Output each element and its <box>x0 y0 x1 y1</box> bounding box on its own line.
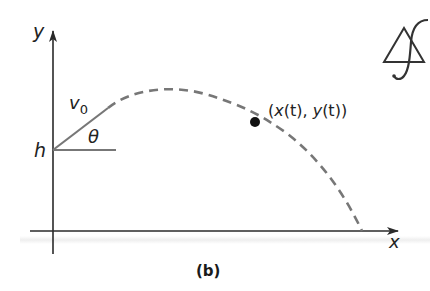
trajectory-point <box>250 117 260 127</box>
x-axis-label: x <box>389 233 400 251</box>
velocity-subscript: 0 <box>80 102 88 117</box>
y-of-t: (t) <box>322 101 341 120</box>
diagram-canvas <box>0 0 430 291</box>
y-axis-label: y <box>33 22 44 41</box>
x-symbol: x <box>274 101 283 120</box>
velocity-symbol: v <box>69 92 80 113</box>
projectile-diagram: y x h v0 θ (x(t), y(t)) (b) <box>0 0 430 291</box>
height-label: h <box>34 141 46 160</box>
paren-close: ) <box>341 101 347 120</box>
figure-caption: (b) <box>196 262 220 280</box>
x-of-t: (t) <box>284 101 303 120</box>
separator: , <box>302 101 312 120</box>
triangle-integral-logo-icon <box>382 16 430 86</box>
angle-label: θ <box>88 128 99 146</box>
point-coordinates-label: (x(t), y(t)) <box>268 103 347 119</box>
initial-velocity-label: v0 <box>69 94 88 116</box>
y-symbol: y <box>313 101 322 120</box>
